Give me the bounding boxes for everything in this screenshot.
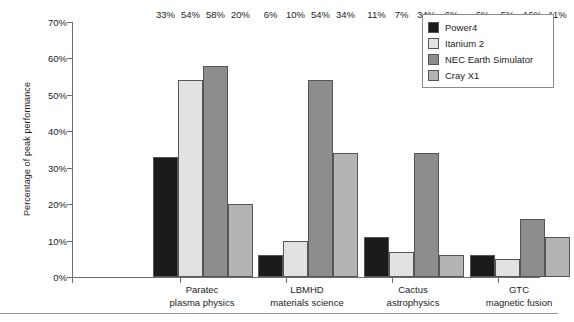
legend-color-swatch	[428, 70, 439, 81]
bar: 7%	[389, 252, 414, 278]
legend-item: Itanium 2	[428, 35, 548, 51]
legend-label: Power4	[445, 22, 477, 33]
bar: 20%	[228, 204, 253, 277]
legend-label: Itanium 2	[445, 38, 484, 49]
legend-item: NEC Earth Simulator	[428, 51, 548, 67]
bar: 16%	[520, 219, 545, 277]
bar-column: 7%	[389, 22, 414, 277]
y-tick-label: 50%	[35, 89, 67, 100]
bar-value-label: 54%	[311, 9, 330, 20]
legend-label: NEC Earth Simulator	[445, 54, 533, 65]
y-tick-label: 0%	[35, 272, 67, 283]
bar: 11%	[364, 237, 389, 277]
bar-group: 6%10%54%34%	[258, 22, 358, 277]
bar-group: 33%54%58%20%	[153, 22, 253, 277]
bottom-divider	[0, 313, 558, 314]
y-tick-mark	[67, 241, 72, 242]
bar: 54%	[308, 80, 333, 277]
y-tick-label: 30%	[35, 162, 67, 173]
bar-column: 11%	[364, 22, 389, 277]
x-axis-group-tick	[286, 278, 287, 283]
legend-color-swatch	[428, 54, 439, 65]
bar: 11%	[545, 237, 570, 277]
x-axis-group-tick	[392, 278, 393, 283]
bar-value-label: 11%	[367, 9, 385, 20]
bar: 6%	[258, 255, 283, 277]
legend-color-swatch	[428, 22, 439, 33]
x-axis-line	[72, 277, 540, 278]
y-tick-label: 70%	[35, 17, 67, 28]
bar-column: 20%	[228, 22, 253, 277]
x-axis-group-tick	[72, 278, 73, 283]
bar-value-label: 34%	[336, 9, 355, 20]
legend-label: Cray X1	[445, 70, 479, 81]
y-tick-label: 20%	[35, 199, 67, 210]
y-tick-mark	[67, 95, 72, 96]
y-tick-label: 10%	[35, 235, 67, 246]
bar: 33%	[153, 157, 178, 277]
bar-column: 54%	[178, 22, 203, 277]
legend-item: Cray X1	[428, 67, 548, 83]
y-tick-mark	[67, 131, 72, 132]
bar-value-label: 33%	[156, 9, 175, 20]
category-line-1: GTC	[449, 283, 574, 296]
y-axis-title: Percentage of peak performance	[22, 39, 32, 259]
bar: 34%	[414, 153, 439, 277]
y-tick-label: 40%	[35, 126, 67, 137]
bar-column: 58%	[203, 22, 228, 277]
bar-column: 54%	[308, 22, 333, 277]
bar-value-label: 7%	[395, 9, 409, 20]
y-tick-mark	[67, 22, 72, 23]
bar: 54%	[178, 80, 203, 277]
bar: 6%	[439, 255, 464, 277]
y-tick-mark	[67, 58, 72, 59]
bar-value-label: 20%	[231, 9, 250, 20]
bar: 10%	[283, 241, 308, 277]
legend-item: Power4	[428, 19, 548, 35]
category-line-2: magnetic fusion	[449, 296, 574, 309]
x-axis-category-label: GTCmagnetic fusion	[449, 283, 574, 309]
bar-value-label: 58%	[206, 9, 225, 20]
x-axis-group-tick	[498, 278, 499, 283]
x-axis-group-tick	[180, 278, 181, 283]
bar-column: 34%	[333, 22, 358, 277]
bar-value-label: 54%	[181, 9, 200, 20]
bar: 34%	[333, 153, 358, 277]
bar-value-label: 10%	[286, 9, 305, 20]
bar-column: 10%	[283, 22, 308, 277]
y-axis-tick-labels: 70%60%50%40%30%20%10%0%	[33, 0, 67, 322]
bar: 5%	[495, 259, 520, 277]
legend-color-swatch	[428, 38, 439, 49]
bar: 6%	[470, 255, 495, 277]
bar-value-label: 6%	[264, 9, 278, 20]
y-tick-mark	[67, 204, 72, 205]
y-tick-label: 60%	[35, 53, 67, 64]
bar-column: 33%	[153, 22, 178, 277]
legend: Power4Itanium 2NEC Earth SimulatorCray X…	[422, 14, 554, 88]
bar: 58%	[203, 66, 228, 277]
y-tick-mark	[67, 168, 72, 169]
bar-column: 6%	[258, 22, 283, 277]
